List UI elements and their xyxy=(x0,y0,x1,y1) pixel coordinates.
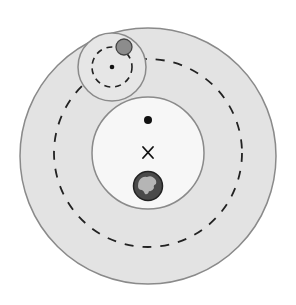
orbit-diagram xyxy=(0,0,296,305)
center-dot xyxy=(144,116,152,124)
moon-icon xyxy=(116,39,132,55)
small-center-dot xyxy=(110,65,115,70)
earth-icon xyxy=(134,172,163,201)
